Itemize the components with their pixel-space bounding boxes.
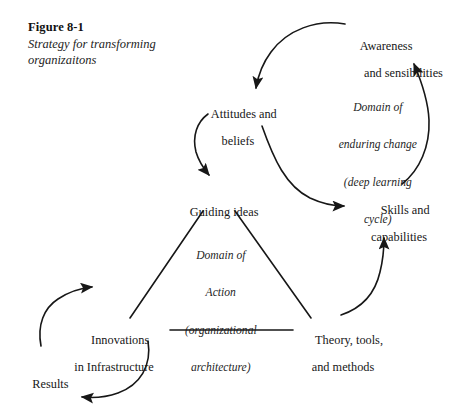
node-awareness-line1: Awareness	[360, 39, 413, 53]
node-attitudes-line2: beliefs	[190, 135, 286, 149]
node-awareness-line2: and sensibilities	[348, 67, 466, 81]
node-theory-tools-and-methods: Theory, tools, and methods	[296, 320, 390, 403]
annotation-action-line2: Action	[206, 286, 236, 299]
node-guiding-line1: Guiding ideas	[190, 205, 259, 219]
annotation-enduring-line1: Domain of	[353, 101, 402, 114]
figure-number: Figure 8-1	[28, 20, 258, 36]
node-innovations-line1: Innovations	[91, 333, 149, 347]
figure-caption: Figure 8-1 Strategy for transforming org…	[28, 20, 258, 68]
node-results-line1: Results	[32, 377, 68, 391]
annotation-domain-of-enduring-change: Domain of enduring change (deep learning…	[318, 80, 426, 249]
figure-subtitle: Strategy for transforming organizaitons	[28, 36, 258, 69]
figure-diagram-canvas: Figure 8-1 Strategy for transforming org…	[0, 0, 471, 415]
node-theory-line1: Theory, tools,	[315, 333, 383, 347]
annotation-action-line3: (organizational	[185, 324, 257, 337]
node-results: Results	[20, 364, 82, 405]
annotation-enduring-line4: cycle)	[364, 213, 392, 226]
annotation-enduring-line3: (deep learning	[344, 176, 412, 189]
figure-subtitle-line1: Strategy for transforming	[28, 37, 156, 51]
annotation-domain-of-action: Domain of Action (organizational archite…	[160, 228, 270, 397]
edge-awareness-to-attitudes	[256, 23, 345, 88]
figure-subtitle-line2: organizaitons	[28, 53, 96, 67]
node-attitudes-and-beliefs: Attitudes and beliefs	[190, 94, 286, 177]
node-theory-line2: and methods	[296, 361, 390, 375]
node-attitudes-line1: Attitudes and	[211, 107, 277, 121]
annotation-enduring-line2: enduring change	[339, 138, 417, 151]
annotation-action-line1: Domain of	[196, 249, 245, 262]
annotation-action-line4: architecture)	[191, 361, 251, 374]
